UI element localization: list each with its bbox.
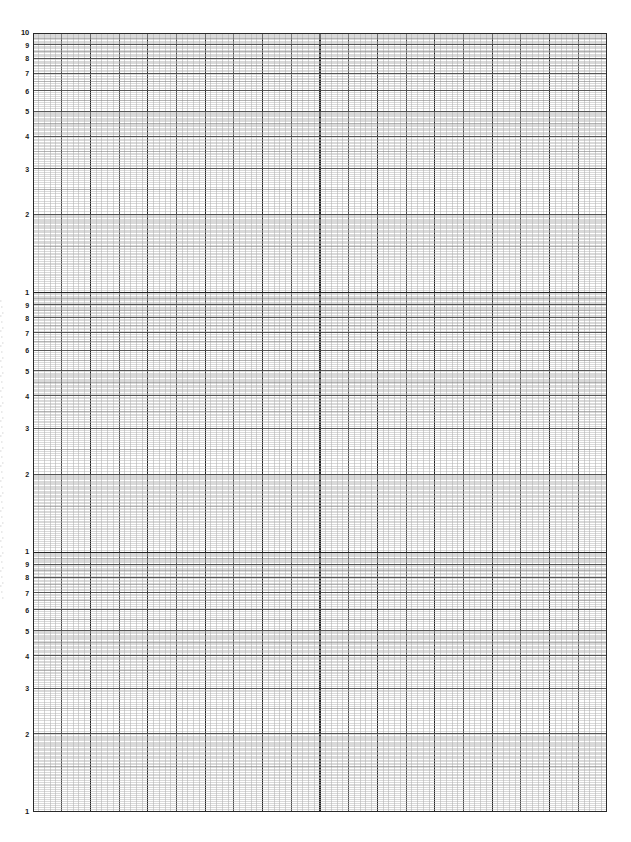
- y-axis-tick-label: 2: [25, 471, 29, 478]
- y-axis-tick-label: 3: [25, 685, 29, 692]
- y-axis-tick-label: 4: [25, 133, 29, 140]
- y-axis-tick-label: 8: [25, 314, 29, 321]
- y-axis-tick-label: 9: [25, 561, 29, 568]
- y-axis-tick-label: 2: [25, 730, 29, 737]
- y-axis-tick-label: 8: [25, 574, 29, 581]
- y-axis-tick-label: 4: [25, 392, 29, 399]
- y-axis-tick-label: 3: [25, 425, 29, 432]
- grid-lines-svg: [33, 33, 607, 812]
- y-axis-tick-label: 6: [25, 606, 29, 613]
- log-grid-plot-area: [33, 33, 607, 812]
- y-axis-tick-label: 9: [25, 41, 29, 48]
- y-axis-tick-label: 7: [25, 329, 29, 336]
- y-axis-tick-label: 4: [25, 652, 29, 659]
- y-axis-tick-label: 10: [21, 29, 29, 37]
- y-axis-tick-label: 3: [25, 165, 29, 172]
- y-axis-tick-label: 1: [25, 289, 29, 297]
- y-axis-tick-label: 6: [25, 347, 29, 354]
- graph-paper-sheet: 10987654321987654321987654321: [0, 0, 631, 842]
- y-axis-tick-label: 2: [25, 211, 29, 218]
- y-axis-tick-label: 9: [25, 301, 29, 308]
- y-axis-tick-label: 5: [25, 627, 29, 634]
- y-axis-tick-label: 1: [25, 808, 29, 816]
- y-axis-tick-label: 5: [25, 367, 29, 374]
- y-axis-tick-label: 7: [25, 70, 29, 77]
- y-axis-tick-label: 5: [25, 108, 29, 115]
- y-axis-tick-label: 7: [25, 589, 29, 596]
- y-axis-tick-label: 8: [25, 55, 29, 62]
- y-axis-tick-label: 1: [25, 549, 29, 557]
- y-axis-label-column: 10987654321987654321987654321: [0, 0, 33, 842]
- y-axis-tick-label: 6: [25, 87, 29, 94]
